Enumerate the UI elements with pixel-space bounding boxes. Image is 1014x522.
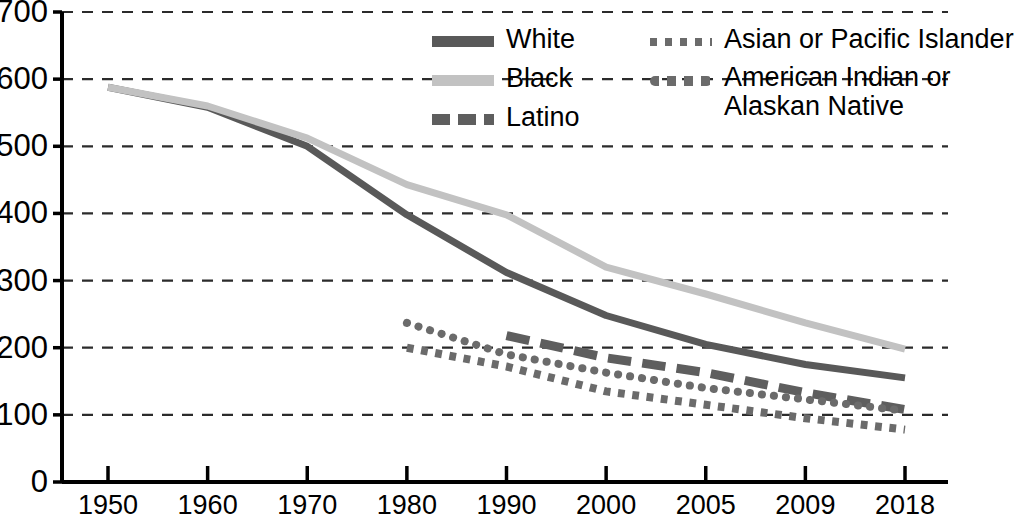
legend-swatch-solid-dark-icon [432,36,494,47]
legend-swatch-dotted-square-icon [650,38,712,46]
legend-label: Black [506,63,572,93]
y-axis-tick-label: 200 [0,332,48,363]
x-axis-tick-label: 1970 [252,492,362,519]
legend-swatch-solid-light-icon [432,75,494,86]
x-axis-tick-label: 2009 [750,492,860,519]
y-axis-tick-label: 600 [0,63,48,94]
legend-label: American Indian orAlaskan Native [724,63,951,121]
series-line-asian-or-pacific-islander [407,348,905,430]
y-axis-tick-label: 500 [0,130,48,161]
y-axis-tick-label: 0 [0,466,48,497]
legend-swatch-dotted-round-icon [650,76,712,86]
chart-legend: WhiteBlackLatinoAsian or Pacific Islande… [432,24,953,132]
x-axis-tick-label: 1990 [452,492,562,519]
y-axis-tick-label: 100 [0,399,48,430]
x-axis-ticks [108,466,905,482]
legend-label: Asian or Pacific Islander [724,24,1014,54]
legend-label: White [506,24,575,54]
y-axis-tick-label: 300 [0,265,48,296]
legend-label: Latino [506,102,580,132]
x-axis-tick-label: 1960 [153,492,263,519]
x-axis-tick-label: 2005 [651,492,761,519]
x-axis-tick-label: 2018 [850,492,960,519]
data-series-group [108,87,905,429]
y-axis-tick-label: 700 [0,0,48,27]
legend-swatch-dashed-dark-icon [432,114,494,125]
y-axis-tick-label: 400 [0,197,48,228]
legend-label-line2: Alaskan Native [724,91,904,121]
x-axis-tick-label: 2000 [551,492,661,519]
x-axis-tick-label: 1980 [352,492,462,519]
x-axis-tick-label: 1950 [53,492,163,519]
